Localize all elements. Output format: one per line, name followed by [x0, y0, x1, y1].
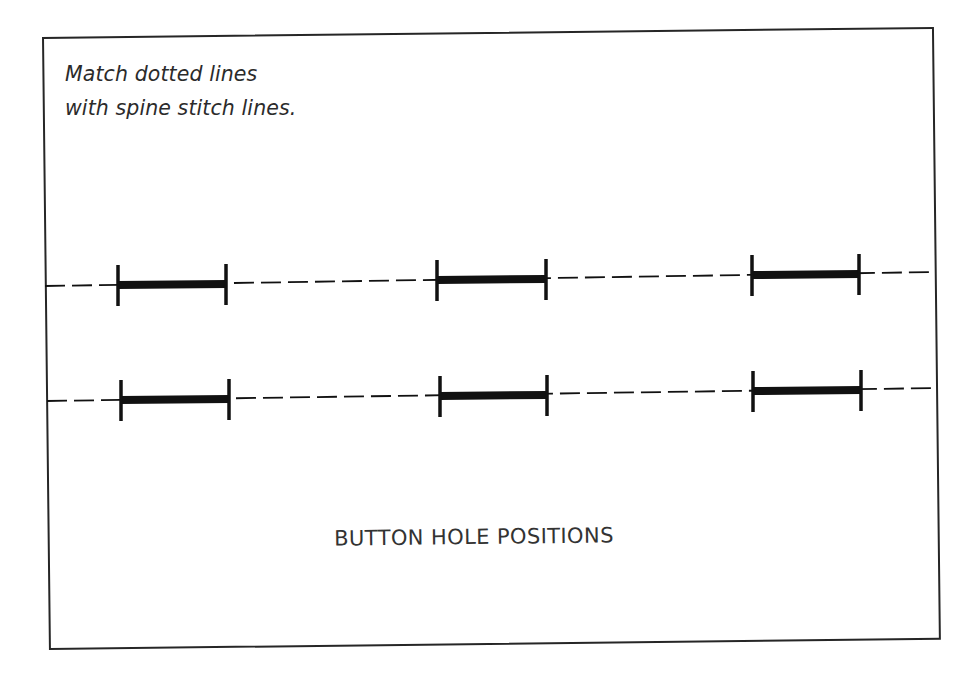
button-hole-mark: [121, 379, 229, 421]
button-hole-mark: [437, 259, 546, 301]
button-hole-mark: [440, 375, 547, 417]
button-hole-mark: [118, 264, 226, 306]
button-hole-mark: [753, 370, 861, 412]
button-hole-row-2: [47, 370, 937, 421]
button-hole-template: Match dotted lines with spine stitch lin…: [0, 0, 977, 681]
diagram-caption: BUTTON HOLE POSITIONS: [278, 523, 670, 551]
button-hole-drawing: [0, 0, 977, 681]
button-hole-row-1: [45, 254, 934, 306]
button-hole-mark: [752, 254, 859, 296]
